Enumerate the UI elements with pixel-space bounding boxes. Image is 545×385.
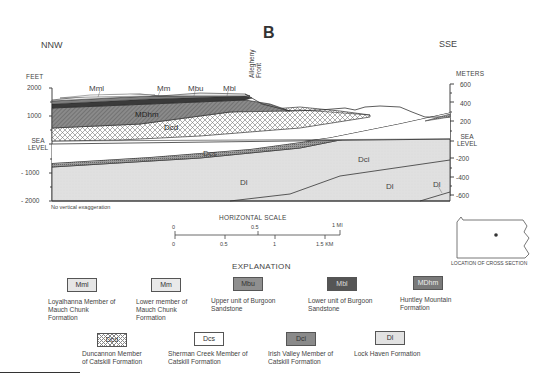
vertical-exaggeration-note: No vertical exaggeration <box>51 204 110 210</box>
label-dcs: Dcs <box>203 149 217 158</box>
label-mm: Mm <box>157 84 170 93</box>
legend-swatch-dci: Dci <box>286 332 316 346</box>
scale-mi-0: 0 <box>172 224 175 230</box>
label-mml: Mml <box>89 84 104 93</box>
scale-km-1-5: 1.5 KM <box>316 241 333 247</box>
legend-desc-mbu: Upper unit of Burgoon Sandstone <box>211 297 291 313</box>
legend-desc-dcs: Sherman Creek Member of Catskill Formati… <box>168 350 250 366</box>
label-mbu: Mbu <box>188 84 204 93</box>
label-dl-2: Dl <box>386 182 394 191</box>
label-dl-1: Dl <box>240 178 248 187</box>
legend-swatch-mm: Mm <box>151 278 181 292</box>
right-axis <box>450 84 454 196</box>
legend-swatch-dcs: Dcs <box>194 332 224 346</box>
scale-km-0-5: 0.5 <box>220 241 228 247</box>
label-mbl: Mbl <box>223 84 236 93</box>
legend-swatch-mml: Mml <box>67 278 97 292</box>
legend-swatch-mbu: Mbu <box>233 277 263 291</box>
legend-desc-mm: Lower member of Mauch Chunk Formation <box>136 298 198 322</box>
legend-desc-mbl: Lower unit of Burgoon Sandstone <box>308 297 383 313</box>
legend-swatch-dcd: Dcd <box>97 333 127 347</box>
legend-swatch-mbl: Mbl <box>327 277 357 291</box>
scale-mi-1: 1 MI <box>332 222 343 228</box>
label-mdhm: MDhm <box>135 110 159 119</box>
scale-km-0: 0 <box>172 241 175 247</box>
footnote-rule <box>0 372 80 373</box>
location-map-label: LOCATION OF CROSS SECTION <box>451 260 527 266</box>
legend-desc-mdhm: Huntley Mountain Formation <box>400 296 464 312</box>
explanation-title: EXPLANATION <box>232 262 291 271</box>
scale-title: HORIZONTAL SCALE <box>219 214 287 221</box>
legend-desc-dl: Lock Haven Formation <box>354 350 434 358</box>
left-axis <box>49 88 52 201</box>
label-dci: Dci <box>358 155 370 164</box>
scale-km-1: 1 <box>273 241 276 247</box>
legend-desc-mml: Loyalhanna Member of Mauch Chunk Formati… <box>48 298 118 322</box>
legend-desc-dcd: Duncannon Member of Catskill Formation <box>82 350 148 366</box>
cross-section-location-marker <box>494 233 498 237</box>
cross-section <box>0 0 545 230</box>
label-dl-3: Dl <box>433 180 441 189</box>
label-allegheny-front: Allegheny Front <box>248 46 262 78</box>
scale-mi-0-5: 0.5 <box>251 224 259 230</box>
legend-swatch-mdhm: MDhm <box>413 276 443 290</box>
label-dcd: Dcd <box>164 123 178 132</box>
pennsylvania-outline-map <box>445 210 540 265</box>
legend-desc-dci: Irish Valley Member of Catskill Formatio… <box>268 350 336 366</box>
legend-swatch-dl: Dl <box>375 331 405 345</box>
